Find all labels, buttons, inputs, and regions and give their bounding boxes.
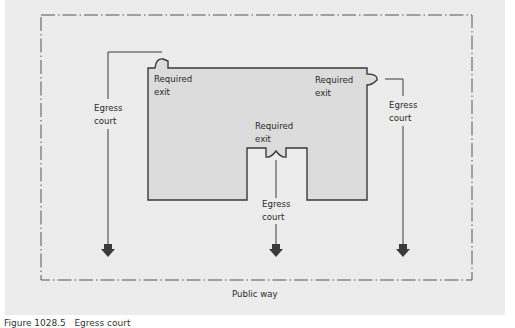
- label-egress-court-right: Egress court: [389, 99, 417, 124]
- arrow-down-icon: [269, 244, 283, 257]
- label-required-exit-top-right: Required exit: [315, 74, 353, 99]
- figure-caption: Figure 1028.5 Egress court: [4, 318, 130, 328]
- label-egress-court-center: Egress court: [262, 198, 290, 223]
- egress-path-right: [385, 79, 403, 96]
- label-egress-court-left: Egress court: [94, 102, 122, 127]
- label-required-exit-center: Required exit: [255, 120, 293, 145]
- label-required-exit-top-left: Required exit: [154, 73, 192, 98]
- label-public-way: Public way: [232, 288, 278, 301]
- arrow-down-icon: [396, 244, 410, 257]
- arrow-down-icon: [101, 244, 115, 257]
